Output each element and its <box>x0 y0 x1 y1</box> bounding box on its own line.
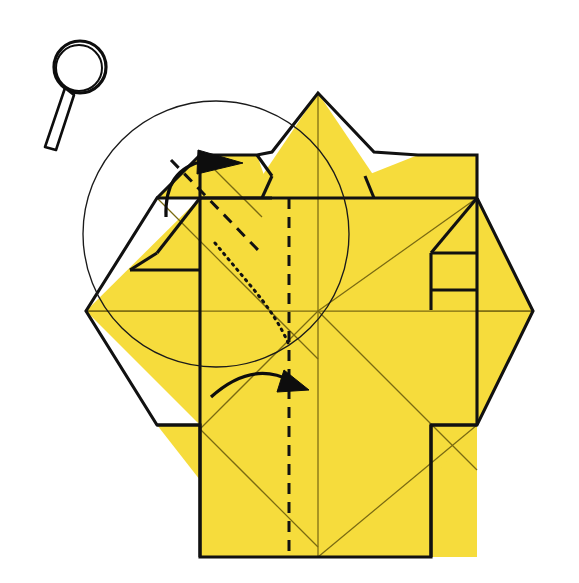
magnifier-icon <box>45 41 106 150</box>
paper-face-bottom-tab <box>200 425 431 557</box>
paper-shape-group <box>86 93 533 557</box>
magnifier-lens-inner <box>56 45 102 91</box>
magnifier-handle <box>45 88 74 150</box>
magnifier-lens-outer <box>54 41 106 93</box>
origami-diagram <box>0 0 579 583</box>
origami-figure-canvas <box>0 0 579 583</box>
paper-face-upper-right-flap <box>365 155 477 198</box>
paper-face-lower-left-leg <box>157 425 200 480</box>
